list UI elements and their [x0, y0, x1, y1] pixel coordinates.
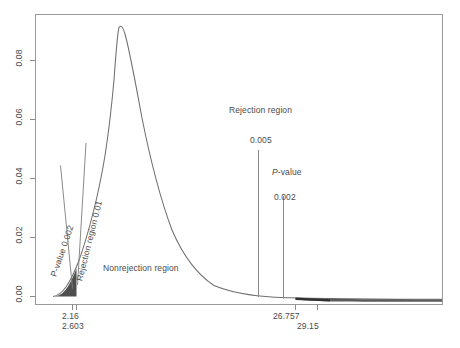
plot-canvas [0, 0, 460, 348]
x-tick-label-2-603: 2.603 [62, 321, 84, 331]
x-tick-label-29-15: 29.15 [297, 321, 319, 331]
right-rejection-region-value: 0.005 [250, 135, 272, 145]
x-tick-label-26-757: 26.757 [273, 311, 300, 321]
x-axis-ticks [73, 305, 318, 311]
chi-square-distribution-chart: 0.00 0.02 0.04 0.06 0.08 2.16 2.603 26.7… [0, 0, 460, 348]
right-p-value-label-rest: -value [278, 167, 302, 177]
nonrejection-region-annotation: Nonrejection region [103, 263, 179, 273]
y-tick-label-0-04: 0.04 [14, 161, 24, 191]
right-p-value-value: 0.002 [274, 192, 296, 202]
right-p-value-label: P-value [272, 167, 302, 177]
right-rejection-region-label: Rejection region [229, 105, 292, 115]
y-tick-label-0-02: 0.02 [14, 220, 24, 250]
y-tick-label-0-08: 0.08 [14, 43, 24, 73]
x-tick-label-2-16: 2.16 [62, 311, 79, 321]
y-tick-label-0-00: 0.00 [14, 279, 24, 309]
density-curve [53, 26, 442, 299]
y-tick-label-0-06: 0.06 [14, 102, 24, 132]
y-axis-ticks [30, 61, 36, 297]
plot-frame [36, 15, 443, 305]
